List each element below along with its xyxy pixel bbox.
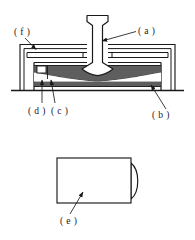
label-e: ( e )	[60, 216, 77, 227]
label-f: ( f )	[14, 27, 30, 38]
left-insert-block	[37, 66, 46, 73]
patent-figure-drawing: ( a ) ( f ) ( d ) ( c ) ( b ) ( e )	[0, 0, 195, 240]
rectangular-plate	[57, 158, 131, 203]
leader-line-a	[102, 32, 136, 42]
upper-cross-section-view: ( a ) ( f ) ( d ) ( c ) ( b )	[11, 16, 184, 122]
diaphragm-lower-band	[34, 82, 161, 87]
right-convex-protrusion	[131, 163, 138, 199]
label-c: ( c )	[51, 106, 68, 117]
label-a: ( a )	[138, 26, 155, 37]
central-shaft	[82, 16, 113, 76]
frame-arm-left	[27, 53, 87, 58]
label-b: ( b )	[152, 110, 170, 121]
patent-figure-container: ( a ) ( f ) ( d ) ( c ) ( b ) ( e )	[0, 0, 195, 240]
leader-line-f	[25, 38, 36, 50]
leader-line-b	[151, 85, 166, 109]
lower-plan-view: ( e )	[57, 158, 138, 227]
frame-arm-right	[108, 53, 168, 58]
label-d: ( d )	[28, 106, 46, 117]
